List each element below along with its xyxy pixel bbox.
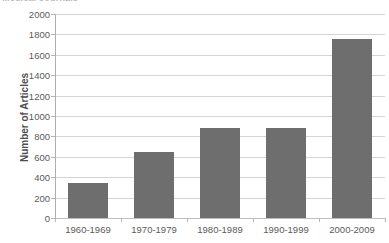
bar[interactable] <box>134 152 174 218</box>
x-axis-tick-mark <box>121 218 122 222</box>
y-axis-tick-label: 600 <box>14 152 50 161</box>
y-axis-tick-mark <box>51 96 55 97</box>
plot-area <box>55 14 385 218</box>
y-axis-tick-label: 1200 <box>14 91 50 100</box>
y-axis-tick-mark <box>51 34 55 35</box>
x-axis-tick-label: 1990-1999 <box>253 224 319 235</box>
x-axis-tick-mark <box>385 218 386 222</box>
y-axis-tick-label: 2000 <box>14 10 50 19</box>
y-axis-tick-mark <box>51 14 55 15</box>
y-axis-tick-label: 1800 <box>14 30 50 39</box>
gridline <box>55 34 385 35</box>
y-axis-tick-label: 200 <box>14 193 50 202</box>
x-axis-tick-labels: 1960-19691970-19791980-19891990-19992000… <box>55 224 385 240</box>
x-axis-tick-mark <box>55 218 56 222</box>
x-axis-tick-mark <box>187 218 188 222</box>
y-axis-tick-mark <box>51 116 55 117</box>
y-axis-tick-mark <box>51 136 55 137</box>
x-axis-tick-label: 1960-1969 <box>55 224 121 235</box>
x-axis-tick-label: 1980-1989 <box>187 224 253 235</box>
y-axis-tick-label: 1600 <box>14 50 50 59</box>
y-axis-tick-mark <box>51 55 55 56</box>
bar[interactable] <box>68 183 108 218</box>
x-axis-tick-mark <box>253 218 254 222</box>
y-axis-tick-label: 1400 <box>14 71 50 80</box>
bar[interactable] <box>266 128 306 218</box>
y-axis-tick-labels: 0200400600800100012001400160018002000 <box>14 14 50 218</box>
bar[interactable] <box>332 39 372 218</box>
x-axis-tick-label: 1970-1979 <box>121 224 187 235</box>
y-axis-line <box>55 14 56 219</box>
x-axis-tick-mark <box>319 218 320 222</box>
y-axis-tick-mark <box>51 75 55 76</box>
y-axis-tick-label: 400 <box>14 173 50 182</box>
y-axis-tick-mark <box>51 157 55 158</box>
y-axis-tick-mark <box>51 177 55 178</box>
x-axis-tick-label: 2000-2009 <box>319 224 385 235</box>
y-axis-tick-label: 800 <box>14 132 50 141</box>
y-axis-tick-label: 1000 <box>14 112 50 121</box>
y-axis-tick-mark <box>51 198 55 199</box>
gridline <box>55 218 385 219</box>
bar[interactable] <box>200 128 240 218</box>
bar-chart: Number of Articles 020040060080010001200… <box>0 0 389 243</box>
gridline <box>55 14 385 15</box>
y-axis-tick-label: 0 <box>14 214 50 223</box>
